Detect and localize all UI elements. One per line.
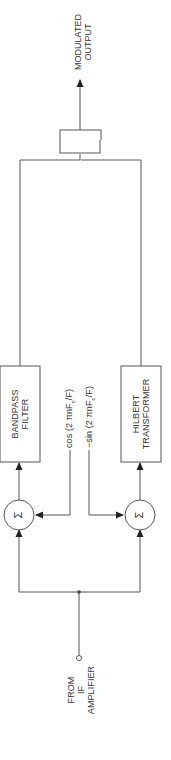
bandpass-filter-label: BANDPASS FILTER	[0, 366, 40, 462]
cos-sub: c	[70, 400, 76, 403]
hilbert-line2: TRANSFORMER	[141, 379, 151, 450]
cos-carrier-label: cos (2 πnFc/F)	[64, 348, 78, 448]
output-label: MODULATED OUTPUT	[68, 10, 98, 75]
sin-text: −sin (2 πnF	[84, 400, 94, 448]
summer-top-symbol: Σ	[13, 506, 23, 524]
hilbert-transformer-label: HILBERT TRANSFORMER	[121, 366, 161, 462]
sin-sub: c	[90, 397, 96, 400]
input-label: FROM IF AMPLIFIER	[66, 660, 96, 720]
cos-tail: /F)	[64, 389, 74, 400]
cos-text: cos (2 πnF	[64, 403, 74, 448]
output-line2: OUTPUT	[83, 9, 93, 75]
output-region: MODULATED OUTPUT	[0, 0, 171, 140]
summer-bottom-symbol: Σ	[134, 506, 144, 524]
sin-carrier-label: −sin (2 πnFc/F)	[84, 348, 98, 448]
bandpass-line1: BANDPASS	[10, 389, 20, 438]
hilbert-line1: HILBERT	[131, 395, 141, 434]
input-label-line2: IF	[76, 660, 86, 720]
sin-tail: /F)	[84, 386, 94, 397]
input-label-line1: FROM	[66, 660, 76, 720]
output-line1: MODULATED	[73, 9, 83, 75]
input-label-line3: AMPLIFIER	[86, 660, 96, 720]
bandpass-line2: FILTER	[20, 399, 30, 430]
